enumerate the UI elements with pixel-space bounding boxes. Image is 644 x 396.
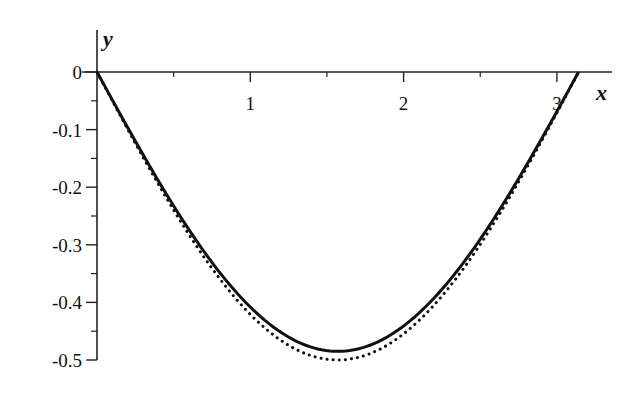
series (97, 72, 579, 360)
y-tick-label: -0.4 (52, 292, 83, 313)
x-tick-label: 2 (399, 93, 409, 114)
dotted-curve (97, 72, 579, 360)
y-axis-label: y (100, 26, 113, 51)
x-axis-label: x (595, 80, 607, 105)
axes (82, 30, 612, 360)
ticks: 1230-0.1-0.2-0.3-0.4-0.5 (52, 62, 562, 371)
y-tick-label: -0.5 (52, 350, 82, 371)
y-tick-label: -0.2 (52, 177, 82, 198)
chart: 1230-0.1-0.2-0.3-0.4-0.5 x y (0, 0, 644, 396)
x-tick-label: 1 (246, 93, 256, 114)
y-tick-label: -0.1 (52, 120, 82, 141)
y-tick-label: 0 (73, 62, 83, 83)
y-tick-label: -0.3 (52, 235, 82, 256)
solid-curve (97, 72, 579, 351)
